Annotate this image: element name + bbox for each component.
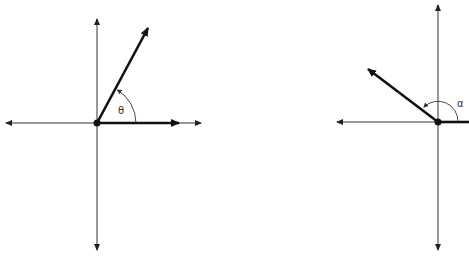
diagram-alpha: α: [337, 5, 469, 250]
angle-label-alpha: α: [457, 98, 464, 109]
angle-label-theta: θ: [118, 105, 124, 116]
origin-point: [94, 120, 101, 127]
diagram-theta: θ: [6, 19, 201, 250]
terminal-side: [368, 69, 438, 122]
angle-arc: [424, 101, 458, 122]
origin-point: [435, 119, 442, 126]
angle-diagrams: θ α: [0, 0, 469, 261]
